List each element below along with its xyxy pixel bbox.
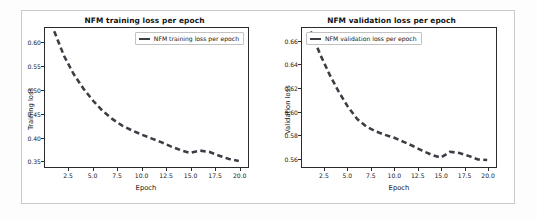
y-tick-mark bbox=[298, 41, 301, 42]
x-tick-mark bbox=[465, 168, 466, 171]
y-tick-mark bbox=[41, 114, 44, 115]
x-tick-mark bbox=[215, 168, 216, 171]
x-tick-label: 20.0 bbox=[233, 172, 247, 179]
y-tick-label: 0.55 bbox=[22, 63, 41, 70]
y-tick-label: 0.56 bbox=[279, 156, 298, 163]
y-tick-mark bbox=[41, 42, 44, 43]
x-tick-mark bbox=[93, 168, 94, 171]
y-tick-label: 0.66 bbox=[279, 37, 298, 44]
y-tick-mark bbox=[41, 138, 44, 139]
y-axis-label-validation: Validation loss bbox=[284, 85, 292, 134]
x-tick-mark bbox=[324, 168, 325, 171]
y-tick-mark bbox=[41, 161, 44, 162]
y-tick-label: 0.40 bbox=[22, 134, 41, 141]
x-tick-label: 10.0 bbox=[388, 172, 402, 179]
x-tick-label: 7.5 bbox=[366, 172, 376, 179]
legend-label-training: NFM training loss per epoch bbox=[154, 35, 239, 42]
chart-title-validation: NFM validation loss per epoch bbox=[268, 16, 515, 25]
training-loss-line-svg bbox=[45, 28, 248, 167]
plot-area-validation: NFM validation loss per epoch bbox=[301, 27, 497, 168]
x-tick-mark bbox=[488, 168, 489, 171]
legend-line-swatch-icon bbox=[310, 38, 321, 40]
x-tick-label: 10.0 bbox=[135, 172, 149, 179]
legend-line-swatch-icon bbox=[139, 38, 150, 40]
x-tick-mark bbox=[347, 168, 348, 171]
y-tick-label: 0.35 bbox=[22, 158, 41, 165]
y-tick-mark bbox=[298, 135, 301, 136]
x-tick-label: 7.5 bbox=[112, 172, 122, 179]
legend-training: NFM training loss per epoch bbox=[135, 32, 244, 45]
x-tick-label: 17.5 bbox=[208, 172, 222, 179]
x-tick-label: 15.0 bbox=[184, 172, 198, 179]
x-axis-label-training: Epoch bbox=[136, 184, 157, 192]
x-tick-mark bbox=[117, 168, 118, 171]
x-tick-label: 17.5 bbox=[458, 172, 472, 179]
y-tick-mark bbox=[41, 66, 44, 67]
x-tick-mark bbox=[371, 168, 372, 171]
x-tick-mark bbox=[240, 168, 241, 171]
x-tick-mark bbox=[166, 168, 167, 171]
x-tick-mark bbox=[441, 168, 442, 171]
x-tick-label: 15.0 bbox=[434, 172, 448, 179]
x-tick-mark bbox=[68, 168, 69, 171]
x-axis-label-validation: Epoch bbox=[389, 184, 410, 192]
x-tick-label: 12.5 bbox=[159, 172, 173, 179]
x-tick-label: 5.0 bbox=[88, 172, 98, 179]
x-tick-mark bbox=[394, 168, 395, 171]
legend-validation: NFM validation loss per epoch bbox=[306, 32, 422, 45]
y-tick-mark bbox=[298, 88, 301, 89]
validation-loss-line-svg bbox=[302, 28, 496, 167]
x-tick-label: 20.0 bbox=[481, 172, 495, 179]
y-tick-mark bbox=[41, 90, 44, 91]
legend-label-validation: NFM validation loss per epoch bbox=[325, 35, 417, 42]
x-tick-label: 2.5 bbox=[63, 172, 73, 179]
y-tick-mark bbox=[298, 64, 301, 65]
y-tick-mark bbox=[298, 159, 301, 160]
x-tick-mark bbox=[142, 168, 143, 171]
chart-training-loss: NFM training loss per epoch NFM training… bbox=[21, 10, 268, 204]
x-tick-label: 5.0 bbox=[343, 172, 353, 179]
x-tick-label: 2.5 bbox=[319, 172, 329, 179]
y-axis-label-training: Training loss bbox=[27, 88, 35, 130]
y-tick-mark bbox=[298, 112, 301, 113]
x-tick-label: 12.5 bbox=[411, 172, 425, 179]
y-tick-label: 0.60 bbox=[22, 39, 41, 46]
chart-title-training: NFM training loss per epoch bbox=[21, 16, 268, 25]
y-tick-label: 0.64 bbox=[279, 61, 298, 68]
x-tick-mark bbox=[191, 168, 192, 171]
x-tick-mark bbox=[418, 168, 419, 171]
chart-validation-loss: NFM validation loss per epoch NFM valida… bbox=[268, 10, 515, 204]
screenshot-page: NFM training loss per epoch NFM training… bbox=[0, 0, 537, 220]
plot-area-training: NFM training loss per epoch bbox=[44, 27, 249, 168]
